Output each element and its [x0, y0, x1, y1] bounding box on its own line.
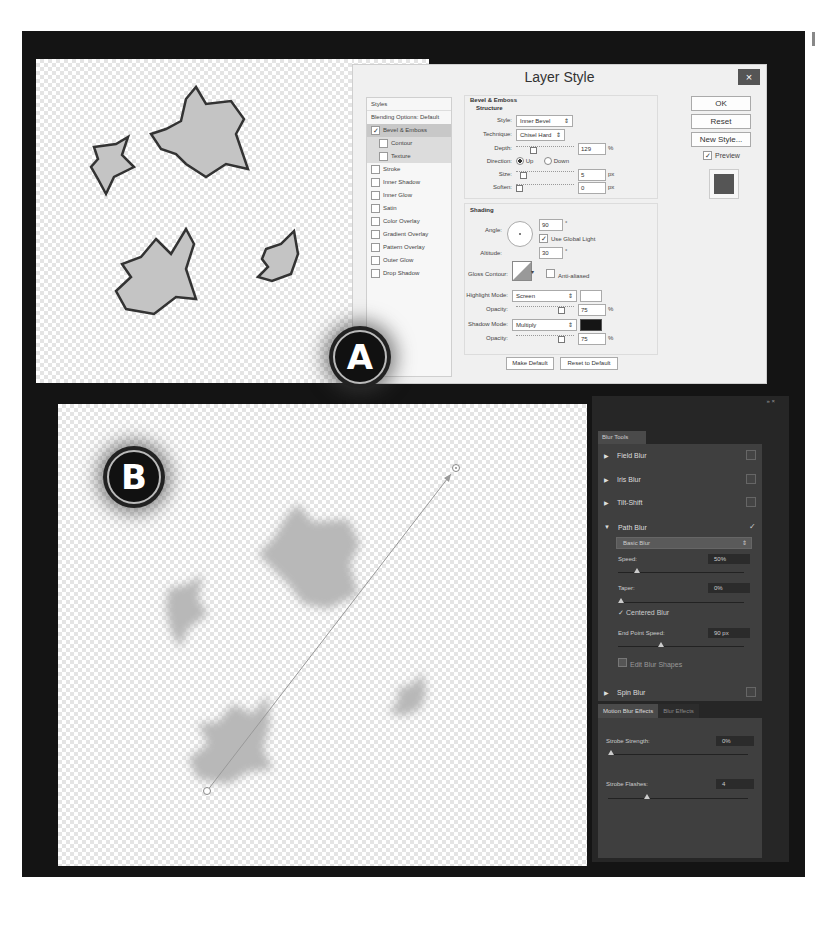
ok-button[interactable]: OK	[691, 96, 751, 111]
make-default-button[interactable]: Make Default	[506, 357, 554, 370]
altitude-input[interactable]: 30	[539, 247, 563, 259]
tab-blur-tools[interactable]: Blur Tools	[598, 431, 646, 444]
checkbox-icon[interactable]	[746, 474, 756, 484]
shadow-opacity-thumb[interactable]	[558, 336, 565, 343]
highlight-opacity-thumb[interactable]	[558, 307, 565, 314]
checkbox-icon[interactable]	[371, 217, 380, 226]
style-item-outer-glow[interactable]: Outer Glow	[367, 254, 451, 267]
checkbox-icon[interactable]	[746, 687, 756, 697]
expand-arrow-icon[interactable]: ▶	[604, 689, 609, 696]
shadow-opacity-input[interactable]: 75	[578, 333, 606, 345]
style-item-drop-shadow[interactable]: Drop Shadow	[367, 267, 451, 280]
reset-button[interactable]: Reset	[691, 114, 751, 129]
checkbox-icon[interactable]	[379, 152, 388, 161]
blur-item-field-blur[interactable]: ▶Field Blur	[604, 448, 756, 462]
style-item-gradient-overlay[interactable]: Gradient Overlay	[367, 228, 451, 241]
preview-option[interactable]: ✓Preview	[703, 151, 740, 160]
style-item-stroke[interactable]: Stroke	[367, 163, 451, 176]
path-blur-preset-select[interactable]: Basic Blur⇕	[616, 537, 752, 549]
expand-arrow-icon[interactable]: ▶	[604, 452, 609, 459]
technique-select[interactable]: Chisel Hard⇕	[516, 129, 565, 141]
panel-collapse-close-icons[interactable]: » ×	[766, 398, 775, 404]
checkbox-checked-icon[interactable]: ✓	[703, 151, 712, 160]
end-point-speed-input[interactable]: 90 px	[708, 628, 750, 638]
direction-down-option[interactable]: Down	[544, 157, 569, 165]
blur-item-iris-blur[interactable]: ▶Iris Blur	[604, 472, 756, 486]
end-point-speed-slider[interactable]	[618, 646, 744, 647]
contour-dropdown-icon[interactable]: ▾	[531, 268, 534, 275]
style-item-blending-options[interactable]: Blending Options: Default	[367, 111, 451, 124]
tab-blur-effects[interactable]: Blur Effects	[658, 704, 699, 718]
radio-selected-icon[interactable]	[516, 157, 524, 165]
expand-arrow-icon[interactable]: ▶	[604, 499, 609, 506]
anti-aliased-option[interactable]: Anti-aliased	[546, 269, 589, 279]
checkbox-icon[interactable]	[371, 256, 380, 265]
edit-blur-shapes-option[interactable]: Edit Blur Shapes	[618, 658, 682, 668]
styles-header[interactable]: Styles	[367, 98, 451, 111]
checkbox-icon[interactable]	[746, 450, 756, 460]
highlight-color-swatch[interactable]	[580, 290, 602, 302]
radio-icon[interactable]	[544, 157, 552, 165]
blur-item-spin-blur[interactable]: ▶Spin Blur	[604, 685, 756, 699]
style-item-satin[interactable]: Satin	[367, 202, 451, 215]
taper-input[interactable]: 0%	[708, 583, 750, 593]
depth-slider[interactable]	[516, 146, 574, 149]
style-item-texture[interactable]: Texture	[367, 150, 451, 163]
style-item-color-overlay[interactable]: Color Overlay	[367, 215, 451, 228]
strobe-flashes-slider[interactable]	[608, 798, 748, 799]
checkbox-icon[interactable]	[618, 658, 627, 667]
checkbox-icon[interactable]	[546, 269, 555, 278]
speed-slider-thumb[interactable]	[634, 568, 640, 573]
checkbox-icon[interactable]	[371, 243, 380, 252]
strobe-strength-thumb[interactable]	[608, 750, 614, 755]
style-item-pattern-overlay[interactable]: Pattern Overlay	[367, 241, 451, 254]
checkmark-icon[interactable]: ✓	[618, 609, 626, 616]
shadow-opacity-slider[interactable]	[516, 335, 574, 338]
style-item-contour[interactable]: Contour	[367, 137, 451, 150]
gloss-contour-picker[interactable]	[512, 261, 532, 281]
strobe-strength-slider[interactable]	[608, 754, 748, 755]
checkbox-icon[interactable]	[371, 191, 380, 200]
checkbox-icon[interactable]	[371, 204, 380, 213]
blur-item-path-blur[interactable]: ▼Path Blur✓	[604, 520, 756, 534]
depth-slider-thumb[interactable]	[530, 147, 537, 154]
shadow-mode-select[interactable]: Multiply⇕	[512, 319, 577, 331]
highlight-mode-select[interactable]: Screen⇕	[512, 290, 577, 302]
checkbox-icon[interactable]	[746, 497, 756, 507]
expand-arrow-icon[interactable]: ▶	[604, 476, 609, 483]
angle-input[interactable]: 90	[539, 219, 563, 231]
checkbox-icon[interactable]	[379, 139, 388, 148]
angle-dial[interactable]	[507, 221, 533, 247]
strobe-strength-input[interactable]: 0%	[716, 736, 754, 746]
shadow-color-swatch[interactable]	[580, 319, 602, 331]
style-select[interactable]: Inner Bevel⇕	[516, 115, 573, 127]
canvas-a[interactable]	[36, 59, 354, 383]
checkbox-icon[interactable]	[371, 230, 380, 239]
collapse-arrow-icon[interactable]: ▼	[604, 524, 610, 530]
end-point-speed-thumb[interactable]	[658, 642, 664, 647]
depth-input[interactable]: 129	[578, 143, 606, 155]
use-global-light-option[interactable]: ✓Use Global Light	[539, 234, 595, 243]
centered-blur-option[interactable]: ✓ Centered Blur	[618, 609, 669, 617]
style-item-inner-glow[interactable]: Inner Glow	[367, 189, 451, 202]
strobe-flashes-thumb[interactable]	[644, 794, 650, 799]
style-item-inner-shadow[interactable]: Inner Shadow	[367, 176, 451, 189]
size-input[interactable]: 5	[578, 169, 606, 181]
blur-item-tilt-shift[interactable]: ▶Tilt-Shift	[604, 495, 756, 509]
soften-slider[interactable]	[516, 184, 574, 187]
highlight-opacity-slider[interactable]	[516, 306, 574, 309]
soften-slider-thumb[interactable]	[516, 185, 523, 192]
reset-to-default-button[interactable]: Reset to Default	[560, 357, 618, 370]
size-slider-thumb[interactable]	[520, 172, 527, 179]
checkbox-checked-icon[interactable]: ✓	[539, 234, 548, 243]
speed-input[interactable]: 50%	[708, 554, 750, 564]
checkmark-icon[interactable]: ✓	[748, 523, 756, 531]
taper-slider-thumb[interactable]	[618, 598, 624, 603]
checkbox-icon[interactable]	[371, 165, 380, 174]
strobe-flashes-input[interactable]: 4	[716, 779, 754, 789]
soften-input[interactable]: 0	[578, 182, 606, 194]
close-button[interactable]: ×	[738, 69, 760, 85]
highlight-opacity-input[interactable]: 75	[578, 304, 606, 316]
direction-up-option[interactable]: Up	[516, 157, 533, 165]
new-style-button[interactable]: New Style...	[691, 132, 751, 147]
